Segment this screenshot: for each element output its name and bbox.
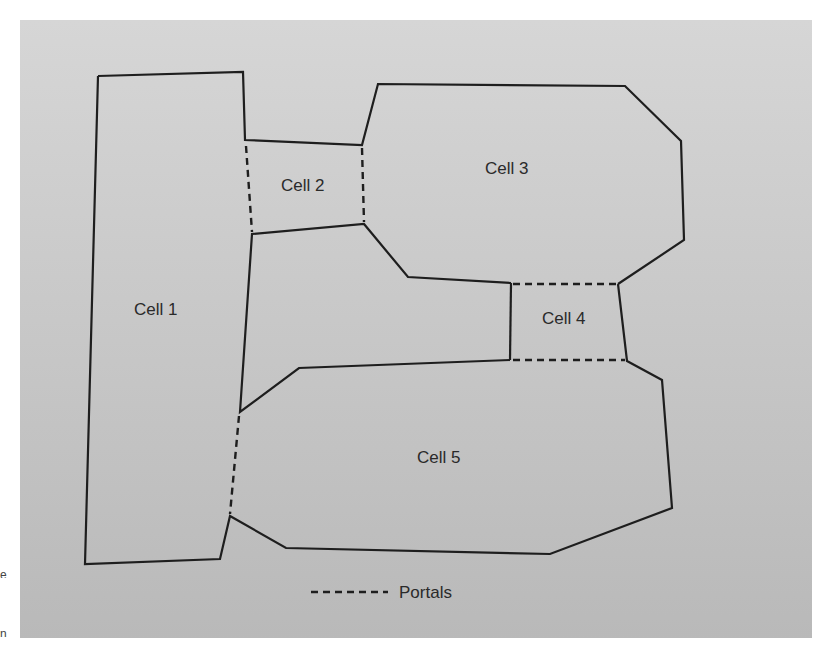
legend: Portals xyxy=(311,583,452,602)
cell-5-label: Cell 5 xyxy=(417,448,460,467)
wall-segment xyxy=(510,283,511,360)
cropped-text-fragment: n xyxy=(0,627,8,637)
cell-3-label: Cell 3 xyxy=(485,159,528,178)
portal-2-3 xyxy=(362,148,364,222)
cell-1-label: Cell 1 xyxy=(134,300,177,319)
wall-segment xyxy=(98,72,684,284)
wall-segment xyxy=(240,224,511,412)
cell-labels: Cell 1 Cell 2 Cell 3 Cell 4 Cell 5 xyxy=(134,159,585,467)
portal-1-5 xyxy=(230,416,239,514)
cell-2-label: Cell 2 xyxy=(281,176,324,195)
navigation-mesh-diagram: Cell 1 Cell 2 Cell 3 Cell 4 Cell 5 Porta… xyxy=(0,0,835,657)
portal-1-2 xyxy=(246,146,252,232)
cell-4-label: Cell 4 xyxy=(542,309,585,328)
legend-label: Portals xyxy=(399,583,452,602)
cropped-text-fragment: e xyxy=(0,568,8,578)
